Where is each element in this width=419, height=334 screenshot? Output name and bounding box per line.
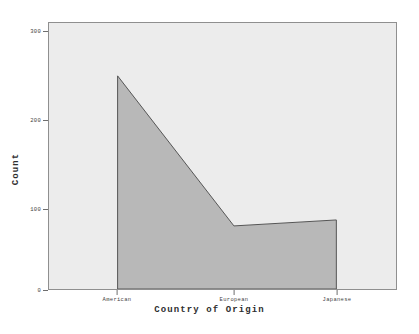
x-tick-japanese: Japanese <box>323 290 352 303</box>
x-tick-mark-european <box>234 290 235 295</box>
y-axis-title-label: Count <box>11 153 21 186</box>
y-tick-mark-200 <box>43 120 48 121</box>
area-series-count <box>118 76 337 289</box>
x-tick-american: American <box>103 290 132 303</box>
x-tick-label-japanese: Japanese <box>323 296 352 303</box>
plot-area <box>48 22 397 290</box>
x-tick-mark-american <box>117 290 118 295</box>
area-chart-svg <box>49 23 396 289</box>
y-tick-mark-100 <box>43 209 48 210</box>
y-tick-label-100: 100 <box>30 205 41 212</box>
y-tick-label-300: 300 <box>30 27 41 34</box>
y-axis-title: Count <box>9 143 23 195</box>
x-tick-european: European <box>220 290 249 303</box>
y-tick-label-200: 200 <box>30 116 41 123</box>
x-axis-title: Country of Origin <box>0 305 419 315</box>
x-tick-label-european: European <box>220 296 249 303</box>
x-axis-title-label: Country of Origin <box>154 305 265 315</box>
chart-figure: 300 200 100 0 Count American European <box>0 0 419 334</box>
x-tick-mark-japanese <box>337 290 338 295</box>
x-tick-label-american: American <box>103 296 132 303</box>
y-tick-mark-300 <box>43 31 48 32</box>
y-axis: 300 200 100 0 <box>0 0 48 334</box>
